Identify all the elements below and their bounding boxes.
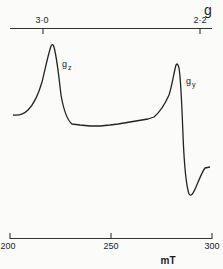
svg-text:g: g [186, 76, 191, 86]
x-tick-label: 300 [204, 241, 219, 251]
svg-text:y: y [192, 81, 196, 89]
svg-text:z: z [68, 64, 72, 71]
spectrum-line [13, 45, 210, 196]
x-tick-label: 200 [0, 241, 15, 251]
g-axis-label: g [204, 2, 212, 18]
x-tick-label: 250 [103, 241, 118, 251]
gz-label: g z [62, 59, 72, 71]
g-axis: 3·0 2·2 g [10, 2, 212, 34]
x-axis-unit: mT [161, 255, 176, 266]
svg-text:g: g [62, 59, 67, 69]
g-tick-label: 3·0 [35, 15, 48, 25]
field-axis: 200 250 300 mT [0, 233, 219, 266]
epr-spectrum-chart: 3·0 2·2 g g z g y 200 250 300 mT [0, 0, 223, 269]
gy-label: g y [186, 76, 196, 89]
